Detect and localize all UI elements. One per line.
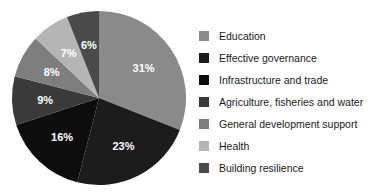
- chart-legend: EducationEffective governanceInfrastruct…: [199, 25, 374, 179]
- pie-chart-plot-area: 31%23%16%9%8%7%6%: [0, 0, 195, 195]
- legend-item[interactable]: Health: [199, 135, 374, 157]
- pie-slice-data-label: 8%: [44, 66, 60, 78]
- pie-slice-data-label: 23%: [112, 140, 134, 152]
- legend-item-label: Education: [219, 31, 266, 42]
- legend-item[interactable]: Infrastructure and trade: [199, 69, 374, 91]
- legend-color-swatch: [199, 141, 209, 151]
- legend-item-label: Health: [219, 141, 249, 152]
- legend-color-swatch: [199, 53, 209, 63]
- legend-item[interactable]: Agriculture, fisheries and water: [199, 91, 374, 113]
- pie-slice-data-label: 16%: [51, 131, 73, 143]
- legend-item-label: Infrastructure and trade: [219, 75, 328, 86]
- pie-chart-svg: 31%23%16%9%8%7%6%: [0, 0, 195, 195]
- legend-item-label: Effective governance: [219, 53, 317, 64]
- legend-color-swatch: [199, 163, 209, 173]
- legend-color-swatch: [199, 31, 209, 41]
- legend-item-label: General development support: [219, 119, 357, 130]
- legend-item[interactable]: Education: [199, 25, 374, 47]
- pie-slice-data-label: 6%: [81, 39, 97, 51]
- legend-item-label: Building resilience: [219, 163, 304, 174]
- legend-color-swatch: [199, 97, 209, 107]
- legend-item[interactable]: General development support: [199, 113, 374, 135]
- legend-color-swatch: [199, 119, 209, 129]
- legend-color-swatch: [199, 75, 209, 85]
- legend-item[interactable]: Building resilience: [199, 157, 374, 179]
- legend-item-label: Agriculture, fisheries and water: [219, 97, 363, 108]
- pie-slice-data-label: 31%: [133, 62, 155, 74]
- pie-chart-figure: 31%23%16%9%8%7%6% EducationEffective gov…: [0, 0, 374, 195]
- legend-item[interactable]: Effective governance: [199, 47, 374, 69]
- pie-slice-data-label: 7%: [61, 47, 77, 59]
- pie-slice-data-label: 9%: [37, 94, 53, 106]
